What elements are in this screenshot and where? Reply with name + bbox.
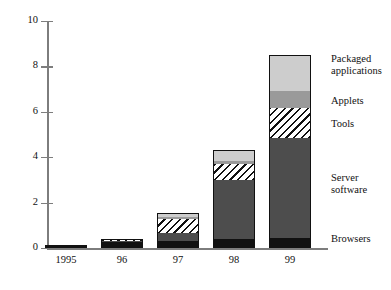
x-axis-line — [47, 248, 328, 250]
x-axis-label-97: 97 — [155, 254, 201, 266]
segment-server-software-97 — [157, 233, 199, 241]
y-tick-in-6 — [48, 112, 53, 113]
y-tick-2 — [41, 203, 47, 204]
bar-97 — [157, 213, 199, 248]
legend-label-packaged-applications: Packaged applications — [331, 53, 382, 76]
segment-tools-99 — [269, 108, 311, 138]
y-label-8-wrap: 8 — [4, 60, 38, 70]
y-tick-in-4 — [48, 157, 53, 158]
y-axis-label-0: 0 — [8, 242, 38, 252]
y-tick-8 — [41, 66, 47, 67]
y-tick-6 — [41, 112, 47, 113]
y-axis-label-6: 6 — [8, 106, 38, 116]
y-tick-in-10 — [48, 21, 53, 22]
y-axis-label-8: 8 — [8, 60, 38, 70]
y-label-2-wrap: 2 — [4, 197, 38, 207]
legend-label-tools: Tools — [331, 118, 354, 130]
segment-packaged-applications-98 — [213, 150, 255, 161]
bar-99 — [269, 55, 311, 248]
segment-browsers-99 — [269, 238, 311, 248]
segment-applets-99 — [269, 91, 311, 108]
legend-label-applets: Applets — [331, 95, 364, 107]
segment-server-software-99 — [269, 138, 311, 238]
y-axis-label-4: 4 — [8, 151, 38, 161]
y-tick-4 — [41, 157, 47, 158]
bar-98 — [213, 150, 255, 248]
legend-label-server-software: Server software — [331, 172, 367, 195]
y-axis-label-10: 10 — [8, 15, 38, 25]
y-label-6-wrap: 6 — [4, 106, 38, 116]
segment-tools-98 — [213, 164, 255, 180]
x-axis-label-1995: 1995 — [43, 254, 89, 266]
segment-browsers-98 — [213, 239, 255, 248]
segment-server-software-98 — [213, 180, 255, 239]
y-axis-line — [47, 21, 49, 249]
y-tick-0 — [41, 248, 47, 249]
y-label-0-wrap: 0 — [4, 242, 38, 252]
x-axis-label-96: 96 — [99, 254, 145, 266]
legend-label-browsers: Browsers — [331, 233, 371, 245]
x-axis-label-99: 99 — [267, 254, 313, 266]
bar-96 — [101, 239, 143, 248]
segment-browsers-96 — [101, 242, 143, 248]
segment-browsers-97 — [157, 241, 199, 248]
segment-tools-97 — [157, 219, 199, 234]
bar-1995 — [45, 245, 87, 248]
y-label-10-wrap: 10 — [4, 15, 38, 25]
x-axis-label-98: 98 — [211, 254, 257, 266]
y-label-4-wrap: 4 — [4, 151, 38, 161]
segment-packaged-applications-99 — [269, 55, 311, 91]
y-axis-label-2: 2 — [8, 197, 38, 207]
segment-browsers-1995 — [45, 245, 87, 248]
stacked-bar-chart: 10 8 6 4 2 0 — [0, 0, 391, 290]
y-tick-10 — [41, 21, 47, 22]
y-tick-in-8 — [48, 66, 53, 67]
y-tick-in-2 — [48, 203, 53, 204]
